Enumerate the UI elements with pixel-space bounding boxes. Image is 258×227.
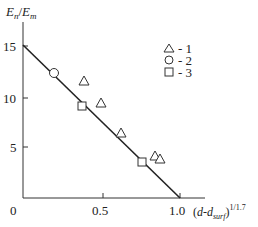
y-ticks: 15 10 5 [3, 39, 28, 155]
legend-triangle-icon [164, 44, 174, 52]
series-1-markers [79, 76, 165, 163]
x-tick-label: 0 [10, 203, 17, 218]
y-axis-title: En/Em [5, 4, 37, 21]
y-tick-label: 15 [3, 39, 16, 54]
series-3-markers [78, 102, 146, 166]
triangle-marker [96, 98, 106, 107]
fit-line [23, 45, 180, 198]
y-tick-label: 5 [10, 140, 17, 155]
legend: - 1 - 2 - 3 [164, 41, 192, 80]
triangle-marker [79, 76, 89, 85]
legend-circle-icon [165, 56, 173, 64]
square-marker [78, 102, 86, 110]
x-axis-title: (d-dsurf)1/1.7 [193, 203, 246, 221]
x-tick-label: 1.0 [169, 203, 185, 218]
circle-marker [50, 69, 59, 78]
x-ticks: 0 0.5 1.0 [10, 193, 185, 218]
x-tick-label: 0.5 [92, 203, 108, 218]
y-tick-label: 10 [3, 91, 16, 106]
legend-label-3: - 3 [178, 65, 192, 80]
triangle-marker [116, 128, 126, 137]
scatter-chart: En/Em 15 10 5 0 0.5 1.0 (d-dsurf)1/1.7 [0, 0, 258, 227]
legend-square-icon [165, 68, 173, 76]
square-marker [138, 158, 146, 166]
